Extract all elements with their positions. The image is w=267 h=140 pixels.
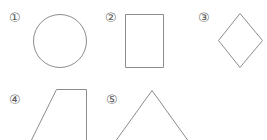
figure-marker-2: ② [105,11,117,24]
figure-marker-3: ③ [198,11,210,24]
figure-marker-1: ① [9,11,21,24]
trapezoid-shape [27,89,88,140]
rectangle-shape [125,14,165,69]
triangle-shape [115,90,189,140]
figure-marker-4: ④ [9,93,21,106]
worksheet-canvas: ① ② ③ ④ ⑤ [0,0,267,140]
circle-shape [32,13,88,69]
diamond-shape [218,13,263,68]
